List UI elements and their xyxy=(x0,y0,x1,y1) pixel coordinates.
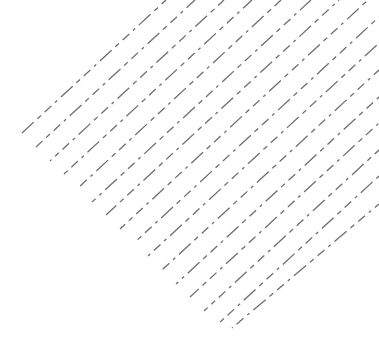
background xyxy=(0,0,379,358)
dashed-line-pattern xyxy=(0,0,379,358)
